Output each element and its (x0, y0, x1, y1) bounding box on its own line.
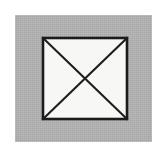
square-with-diagonals-figure (41, 36, 129, 121)
figure-canvas (0, 0, 168, 149)
